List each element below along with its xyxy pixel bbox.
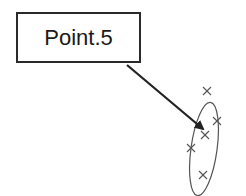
point-markers bbox=[187, 87, 221, 179]
diagram-canvas bbox=[0, 0, 246, 196]
x-mark-icon bbox=[201, 131, 209, 139]
leader-arrow bbox=[127, 65, 203, 129]
x-mark-icon bbox=[203, 87, 211, 95]
x-mark-icon bbox=[213, 117, 221, 125]
x-mark-icon bbox=[199, 171, 207, 179]
